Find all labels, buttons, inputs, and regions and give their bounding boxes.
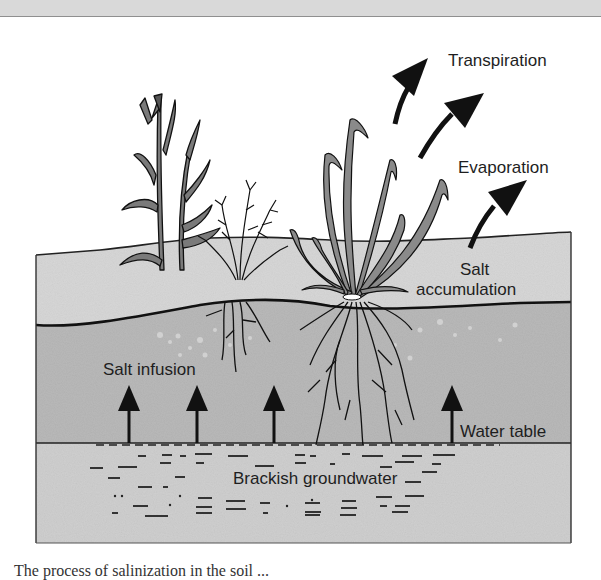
transpiration-arrows xyxy=(392,58,484,158)
label-salt-accumulation-line1: Salt xyxy=(460,261,489,278)
groundwater-layer xyxy=(36,443,571,543)
salt-crust xyxy=(343,294,361,300)
label-salt-infusion: Salt infusion xyxy=(103,361,196,378)
figure-caption: The process of salinization in the soil … xyxy=(14,562,269,580)
label-water-table: Water table xyxy=(460,423,546,440)
label-transpiration: Transpiration xyxy=(448,52,547,69)
curved-up-arrow-icon xyxy=(392,58,428,124)
label-brackish-groundwater: Brackish groundwater xyxy=(233,470,397,487)
label-evaporation: Evaporation xyxy=(458,159,549,176)
label-salt-accumulation-line2: accumulation xyxy=(416,281,516,298)
curved-up-arrow-icon xyxy=(420,93,484,158)
